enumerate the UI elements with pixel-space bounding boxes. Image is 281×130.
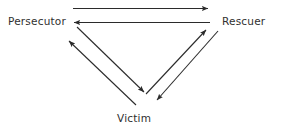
node-label-rescuer: Rescuer — [222, 16, 265, 27]
arrow-rescuer-to-victim — [157, 31, 218, 100]
arrow-persecutor-to-victim — [77, 27, 144, 92]
node-label-persecutor: Persecutor — [8, 16, 66, 27]
node-label-victim: Victim — [117, 113, 151, 124]
drama-triangle-diagram: Persecutor Rescuer Victim — [0, 0, 281, 130]
arrow-victim-to-rescuer — [146, 30, 206, 94]
arrow-victim-to-persecutor — [69, 41, 136, 105]
